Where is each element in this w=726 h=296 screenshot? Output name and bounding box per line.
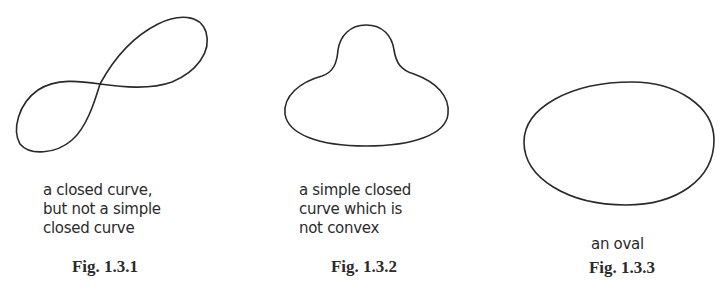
figure-caption-3: an oval xyxy=(591,235,644,254)
oval-curve xyxy=(524,82,714,205)
caption-line: curve which is xyxy=(299,200,411,219)
caption-line: but not a simple xyxy=(43,200,161,219)
caption-line: closed curve xyxy=(43,219,161,238)
figure-label-1: Fig. 1.3.1 xyxy=(72,257,138,277)
caption-line: a simple closed xyxy=(299,181,411,200)
figure-label-3: Fig. 1.3.3 xyxy=(589,258,655,278)
caption-line: an oval xyxy=(591,235,644,254)
figure-caption-1: a closed curve, but not a simple closed … xyxy=(43,181,161,238)
caption-line: a closed curve, xyxy=(43,181,161,200)
figure-caption-2: a simple closed curve which is not conve… xyxy=(299,181,411,238)
caption-line: not convex xyxy=(299,219,411,238)
figure-eight-curve xyxy=(17,17,208,152)
bell-shaped-curve xyxy=(285,25,448,146)
figure-label-2: Fig. 1.3.2 xyxy=(331,257,397,277)
